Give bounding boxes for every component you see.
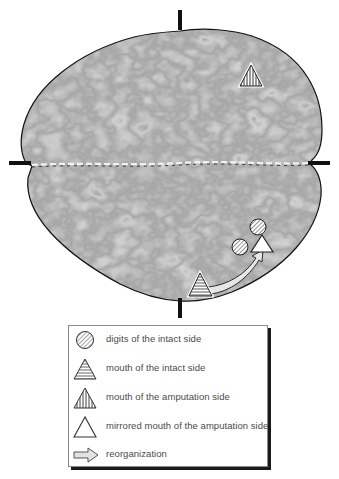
circle-diagonal-hatch-icon [73,328,97,352]
legend-item-mirrored-mouth: mirrored mouth of the amputation side [69,415,267,439]
legend-label: mouth of the intact side [106,362,205,373]
brain-figure [0,0,339,320]
legend-item-mouth-amputation: mouth of the amputation side [69,386,267,410]
brain-surface [0,0,339,320]
triangle-vertical-stripes-icon [73,386,97,410]
arrow-icon [72,443,98,467]
legend-item-reorganization: reorganization [69,443,267,467]
crosshair-bottom [178,298,182,318]
legend-item-digits-intact: digits of the intact side [69,328,267,352]
legend-box: digits of the intact side mouth of the i… [68,325,268,467]
legend-label: reorganization [106,448,167,459]
triangle-open-icon [73,415,97,439]
legend-label: digits of the intact side [106,333,201,344]
crosshair-top [178,10,182,30]
crosshair-left [9,161,31,165]
crosshair-right [308,161,330,165]
legend-label: mirrored mouth of the amputation side [106,420,268,431]
triangle-horizontal-stripes-icon [73,357,97,381]
legend-item-mouth-intact: mouth of the intact side [69,357,267,381]
legend-label: mouth of the amputation side [106,391,230,402]
